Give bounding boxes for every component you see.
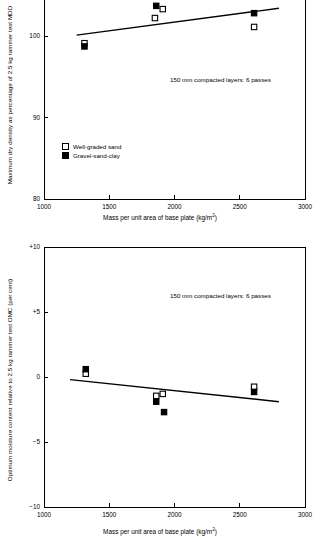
x-tick-label: 3000 (285, 203, 320, 210)
data-point-gravel-sand-clay (251, 389, 256, 394)
data-point-gravel-sand-clay (251, 10, 256, 15)
x-axis-title-bottom: Mass per unit area of base plate (kg/m2) (0, 527, 320, 535)
legend-label: Well-graded sand (73, 143, 121, 150)
y-tick-label: −5 (10, 438, 40, 445)
data-point-well-graded-sand (152, 15, 157, 20)
chart-panel-maximum-dry-density: Maximum dry density as percentage of 2.5… (0, 0, 320, 230)
y-tick-label: −10 (10, 503, 40, 510)
y-axis-title-top: Maximum dry density as percentage of 2.5… (6, 0, 13, 190)
data-point-gravel-sand-clay (161, 409, 166, 414)
annotation-bottom: 150 mm compacted layers: 6 passes (170, 292, 271, 299)
y-tick-label: 100 (10, 32, 40, 39)
x-tick-label: 2000 (155, 511, 195, 518)
figure-container: Maximum dry density as percentage of 2.5… (0, 0, 320, 542)
data-point-well-graded-sand (251, 24, 256, 29)
data-point-well-graded-sand (160, 6, 165, 11)
open-square-icon (62, 143, 69, 150)
x-tick-label: 1000 (24, 203, 64, 210)
legend-top: Well-graded sand Gravel-sand-clay (62, 142, 121, 160)
trendline (77, 8, 279, 35)
y-tick-label: +10 (10, 243, 40, 250)
legend-item-gravel-sand-clay: Gravel-sand-clay (62, 151, 121, 160)
plot-area-optimum-moisture-content (0, 237, 320, 542)
legend-item-well-graded-sand: Well-graded sand (62, 142, 121, 151)
y-axis-title-bottom: Optimum moisture content relative to 2.5… (6, 255, 13, 505)
y-tick-label: 90 (10, 114, 40, 121)
data-point-gravel-sand-clay (154, 3, 159, 8)
x-tick-label: 1500 (89, 203, 129, 210)
plot-area-maximum-dry-density (0, 0, 320, 230)
x-tick-label: 2000 (155, 203, 195, 210)
y-tick-label: 0 (10, 373, 40, 380)
axis-frame (44, 0, 305, 199)
chart-panel-optimum-moisture-content: Optimum moisture content relative to 2.5… (0, 237, 320, 542)
y-tick-label: +5 (10, 308, 40, 315)
x-tick-label: 2500 (220, 203, 260, 210)
data-point-gravel-sand-clay (154, 399, 159, 404)
x-tick-label: 2500 (220, 511, 260, 518)
data-point-well-graded-sand (251, 384, 256, 389)
annotation-top: 150 mm compacted layers: 6 passes (170, 76, 271, 83)
x-tick-label: 3000 (285, 511, 320, 518)
x-axis-title-top: Mass per unit area of base plate (kg/m2) (0, 213, 320, 221)
x-tick-label: 1500 (89, 511, 129, 518)
legend-label: Gravel-sand-clay (73, 152, 120, 159)
filled-square-icon (62, 152, 69, 159)
data-point-gravel-sand-clay (83, 367, 88, 372)
data-point-gravel-sand-clay (82, 44, 87, 49)
trendline (70, 380, 279, 402)
data-point-well-graded-sand (154, 393, 159, 398)
y-tick-label: 80 (10, 195, 40, 202)
data-point-well-graded-sand (160, 391, 165, 396)
x-tick-label: 1000 (24, 511, 64, 518)
